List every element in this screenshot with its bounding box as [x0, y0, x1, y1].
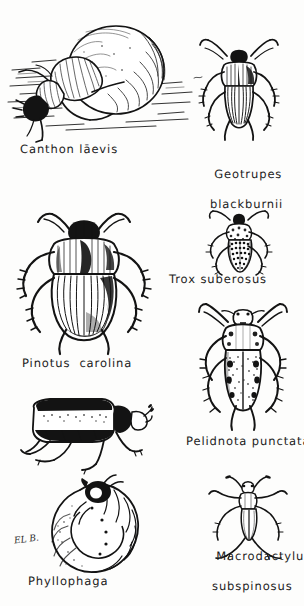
canthon-laevis-drawing: [6, 18, 196, 143]
caption-line-1: Macrodactylus: [216, 549, 304, 563]
figure-phyllophaga-larva: [46, 478, 146, 578]
trox-suberosus-drawing: [204, 206, 274, 278]
caption-macrodactylus-subspinosus: Macrodactylus subspinosus: [198, 534, 304, 606]
caption-line-1: Geotrupes: [214, 167, 282, 181]
phyllophaga-adult-drawing: [16, 392, 152, 472]
caption-trox-suberosus: Trox suberosus: [169, 272, 267, 286]
artist-signature: EL B.: [13, 533, 39, 546]
figure-pelidnota-punctata: [196, 296, 292, 430]
illustration-plate: Canthon lāevis: [0, 0, 304, 606]
figure-canthon-laevis: [6, 18, 196, 143]
phyllophaga-larva-drawing: [46, 478, 146, 578]
figure-trox-suberosus: [204, 206, 274, 278]
figure-phyllophaga-adult: [16, 392, 152, 472]
caption-phyllophaga: Phyllophaga: [28, 574, 108, 588]
pelidnota-punctata-drawing: [196, 296, 292, 430]
pinotus-carolina-drawing: [14, 202, 154, 354]
geotrupes-blackburnii-drawing: [196, 32, 282, 144]
caption-line-2: subspinosus: [198, 579, 304, 594]
caption-pelidnota-punctata: Pelidnota punctata: [186, 434, 304, 448]
caption-pinotus-carolina: Pinotus carolina: [22, 356, 132, 370]
figure-pinotus-carolina: [14, 202, 154, 354]
figure-geotrupes-blackburnii: [196, 32, 282, 144]
caption-canthon-laevis: Canthon lāevis: [20, 142, 118, 156]
